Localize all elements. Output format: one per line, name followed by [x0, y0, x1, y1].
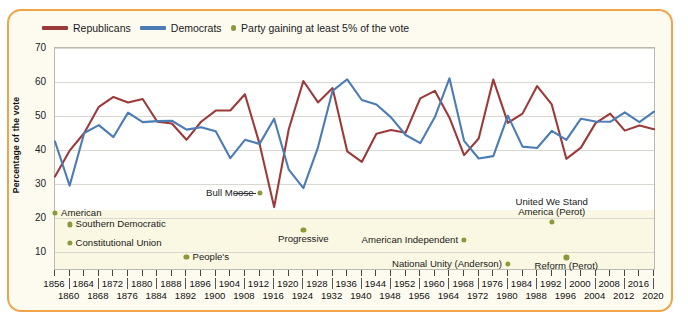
x-tick-mark — [448, 270, 449, 276]
third-party-label: National Unity (Anderson) — [392, 258, 502, 269]
x-tick-mark — [171, 270, 172, 276]
x-tick-label: 1968 — [452, 278, 473, 289]
x-label-separator — [448, 278, 449, 289]
x-tick-label: 2004 — [584, 290, 605, 301]
chart-legend: Republicans Democrats Party gaining at l… — [42, 20, 409, 36]
x-tick-label: 1956 — [409, 290, 430, 301]
x-tick-label: 1908 — [233, 290, 254, 301]
x-tick-mark — [200, 270, 201, 276]
x-tick-label: 1964 — [438, 290, 459, 301]
x-tick-mark — [522, 270, 523, 276]
x-tick-label: 1940 — [350, 290, 371, 301]
x-tick-mark — [361, 270, 362, 276]
x-tick-mark — [565, 270, 566, 276]
third-party-label: United We StandAmerica (Perot) — [516, 196, 588, 217]
legend-item-third-party: Party gaining at least 5% of the vote — [231, 22, 410, 34]
x-tick-mark — [142, 270, 143, 276]
x-tick-label: 2008 — [598, 278, 619, 289]
x-tick-mark — [244, 270, 245, 276]
x-tick-label: 1936 — [336, 278, 357, 289]
x-tick-label: 1984 — [511, 278, 532, 289]
x-tick-label: 1860 — [58, 290, 79, 301]
third-party-label: American — [61, 208, 102, 219]
x-tick-mark — [185, 270, 186, 276]
x-label-separator — [419, 278, 420, 289]
x-label-separator — [624, 278, 625, 289]
x-tick-mark — [302, 270, 303, 276]
y-tick-label: 20 — [22, 212, 46, 223]
x-tick-label: 2020 — [642, 290, 663, 301]
x-tick-mark — [259, 270, 260, 276]
x-tick-mark — [463, 270, 464, 276]
x-tick-mark — [653, 270, 654, 276]
x-tick-mark — [215, 270, 216, 276]
x-tick-mark — [54, 270, 55, 276]
x-tick-mark — [332, 270, 333, 276]
x-label-separator — [565, 278, 566, 289]
x-tick-label: 1912 — [248, 278, 269, 289]
x-label-separator — [332, 278, 333, 289]
x-tick-mark — [112, 270, 113, 276]
chart-figure: Republicans Democrats Party gaining at l… — [0, 0, 688, 323]
x-tick-label: 1920 — [277, 278, 298, 289]
x-tick-mark — [551, 270, 552, 276]
x-tick-mark — [609, 270, 610, 276]
x-tick-mark — [127, 270, 128, 276]
x-label-separator — [536, 278, 537, 289]
x-label-separator — [478, 278, 479, 289]
third-party-label: Southern Democratic — [76, 219, 166, 230]
x-tick-label: 1872 — [102, 278, 123, 289]
y-tick-label: 10 — [22, 246, 46, 257]
x-tick-label: 1868 — [87, 290, 108, 301]
x-label-separator — [244, 278, 245, 289]
plot-area: AmericanSouthern DemocraticConstitutiona… — [54, 47, 655, 270]
x-tick-label: 1904 — [219, 278, 240, 289]
legend-item-republicans: Republicans — [42, 22, 131, 34]
x-tick-mark — [492, 270, 493, 276]
x-tick-label: 1924 — [292, 290, 313, 301]
x-tick-mark — [317, 270, 318, 276]
x-tick-label: 1884 — [146, 290, 167, 301]
x-tick-label: 1916 — [262, 290, 283, 301]
x-tick-label: 1944 — [365, 278, 386, 289]
x-tick-mark — [273, 270, 274, 276]
x-tick-label: 1864 — [73, 278, 94, 289]
x-label-separator — [302, 278, 303, 289]
x-label-separator — [127, 278, 128, 289]
legend-item-democrats: Democrats — [140, 22, 222, 34]
x-label-separator — [361, 278, 362, 289]
x-tick-mark — [229, 270, 230, 276]
x-tick-mark — [375, 270, 376, 276]
plot-inner: AmericanSouthern DemocraticConstitutiona… — [55, 48, 654, 269]
third-party-label: People's — [192, 252, 229, 263]
x-tick-label: 1996 — [555, 290, 576, 301]
x-tick-mark — [478, 270, 479, 276]
legend-label-democrats: Democrats — [171, 22, 222, 34]
x-tick-label: 1932 — [321, 290, 342, 301]
x-label-separator — [69, 278, 70, 289]
x-tick-mark — [69, 270, 70, 276]
x-tick-mark — [536, 270, 537, 276]
x-tick-label: 2000 — [569, 278, 590, 289]
x-tick-label: 1980 — [496, 290, 517, 301]
x-tick-mark — [624, 270, 625, 276]
y-tick-label: 50 — [22, 110, 46, 121]
y-tick-label: 40 — [22, 144, 46, 155]
y-tick-label: 30 — [22, 178, 46, 189]
x-tick-mark — [638, 270, 639, 276]
x-tick-label: 1876 — [116, 290, 137, 301]
x-tick-label: 1948 — [379, 290, 400, 301]
x-tick-mark — [419, 270, 420, 276]
x-tick-label: 1972 — [467, 290, 488, 301]
x-tick-label: 1892 — [175, 290, 196, 301]
x-tick-mark — [98, 270, 99, 276]
series-line-democrats — [55, 78, 654, 188]
x-tick-mark — [405, 270, 406, 276]
x-tick-label: 1896 — [189, 278, 210, 289]
x-tick-label: 1928 — [306, 278, 327, 289]
x-label-separator — [273, 278, 274, 289]
legend-label-third-party: Party gaining at least 5% of the vote — [241, 22, 409, 34]
x-label-separator — [185, 278, 186, 289]
x-label-separator — [507, 278, 508, 289]
x-tick-label: 1988 — [525, 290, 546, 301]
